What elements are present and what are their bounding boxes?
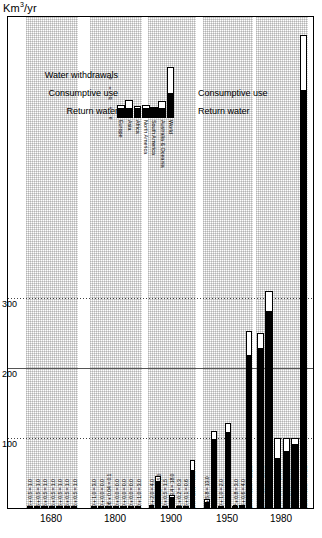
bar-value-label: 1.0 + 1.0 = 2.0 [219,479,224,508]
inset-bar-asia [125,100,133,118]
inset-bar-segment-return-water [126,108,132,117]
x-tick-label-1900: 1900 [160,514,182,524]
legend-item-consumptive-use-right: Consumptive use [198,84,306,102]
bar-value-label: 280.0 + 30.0 = 310.0 [268,465,273,508]
bar-value-label: 53.0 + 15.0 = 68.0 [191,471,196,508]
bar-value-label: 1.4 + 0.6 = 4.0 [241,479,246,508]
bar-value-label: 2.0 + 1.0 = 3.0 [92,479,97,508]
x-tick-label-1950: 1950 [216,514,238,524]
bar-value-label: 0.5 + 0.1 = 0.6 [184,479,189,508]
inset-bar-segment-return-water [118,108,124,117]
bar-segment-return-water [301,90,306,507]
x-tick-label-1680: 1680 [40,514,62,524]
bar-value-label: 0.5 + 0.5 = 1.0 [28,479,33,508]
inset-category-label: North America [143,120,148,154]
inset-category-label: Europe [118,120,123,137]
inset-bar-south-america [150,107,158,118]
bar-value-label: 14.6 + 3.4 = 18.0 [170,474,175,508]
bar-value-label: 80.0 + 20.0 = 100.0 [285,468,290,508]
legend-item-return-water: Return water [10,102,118,120]
inset-bar-australia---oceania [158,101,166,118]
inset-bar-europe [117,105,125,118]
legend-item-return-water-right: Return water [198,102,306,120]
bar-value-label: 0.0 + 0.0 = 0.0 [114,479,119,508]
legend-right: Consumptive use Return water [198,84,306,120]
inset-bar-north-america [142,105,150,118]
inset-category-label: World [168,120,173,134]
bar-value-label: 96.8 + 13.2 = 110.0 [212,468,217,508]
inset-bar-segment-return-water [159,108,165,117]
inset-tick-label: c [108,77,113,80]
bar-value-label: 7.2 + 5.8 = 13.0 [205,476,210,508]
bar-value-label: 0.5 + 0.5 = 1.0 [73,479,78,508]
legend-label-return-water-right: Return water [198,106,250,116]
inset-bar-africa [134,106,142,118]
legend-left: Water withdrawals Consumptive use Return… [10,66,118,120]
inset-tick-label: = [108,86,113,89]
x-tick-label-1980: 1980 [270,514,292,524]
bar-value-label: 0.5 + 0.5 = 1.0 [43,479,48,508]
inset-tick-label: a [108,116,113,119]
bar-value-label: 0.1 + 0.2 = 0.3 [177,479,182,508]
bar-value-label: 227.0 + 23.0 = 250.0 [259,465,264,508]
water-withdrawals-chart: Km3/yr 0.5 + 0.5 = 1.00.5 + 0.5 = 1.00.5… [0,0,322,538]
bar-value-label: 0.5 + 0.5 = 1.0 [58,479,63,508]
bar-value-label: 2.2 + 0.8 = 3.0 [233,479,238,508]
inset-bars [117,62,175,118]
inset-bar-world [167,67,175,118]
inset-tick-label: b [108,96,113,99]
inset-category-label: Asia [126,120,131,131]
inset-category-label: Africa [134,120,139,134]
inset-bar-segment-return-water [143,108,149,117]
x-axis: 16801800190019501980 [7,510,314,532]
bar-value-label: 595.0 + 80.0 = 675.0 [303,465,308,508]
inset-tick-label: + [108,106,113,109]
legend-item-water-withdrawals: Water withdrawals [10,66,118,84]
bar-value-label: 2.0 + 2.0 = 4.0 [150,479,155,508]
inset-bar-segment-return-water [151,108,157,117]
y-axis-title: Km3/yr [3,1,37,14]
inset-bar-segment-return-water [135,108,141,117]
bar-value-label: 0.0 + 0.0 = 0.0 [122,479,127,508]
x-tick-label-1800: 1800 [104,514,126,524]
bar-value-label: 90.0 + 10.0 = 100.0 [294,468,299,508]
bar-value-label: 0.06 + 0.04 = 0.1 [107,474,112,508]
bar-value-label: 0.5 + 0.5 = 1.0 [50,479,55,508]
bar-value-label: 0.5 + 0.5 = 1.0 [36,479,41,508]
inset-chart: a+b=c EuropeAsiaAfricaNorth AmericaSouth… [117,62,175,140]
bar-value-label: 1.0 + 0.5 = 1.5 [163,479,168,508]
bar-value-label: 2.0 + 1.0 = 3.0 [137,479,142,508]
legend-label-consumptive-use-right: Consumptive use [198,88,268,98]
bar-value-label: 0.0 + 0.0 = 0.0 [100,479,105,508]
y-tick-label-200: 200 [2,370,17,379]
bar-value-label: 0.5 + 0.5 = 1.0 [65,479,70,508]
inset-category-label: Australia & Oceania [159,120,164,168]
inset-category-label: South America [151,120,156,155]
inset-bar-segment-return-water [168,93,174,117]
bar-value-label: 70.0 + 30.0 = 100.0 [277,468,282,508]
bar-value-label: 107.0 + 13.2 = 121.0 [226,465,231,508]
y-tick-label-100: 100 [2,440,17,449]
bar-value-label: 0.0 + 0.0 = 0.0 [129,479,134,508]
y-tick-label-300: 300 [2,300,17,309]
bar-value-label: 217.0 + 35.0 = 252.0 [248,465,253,508]
legend-item-consumptive-use: Consumptive use [10,84,118,102]
